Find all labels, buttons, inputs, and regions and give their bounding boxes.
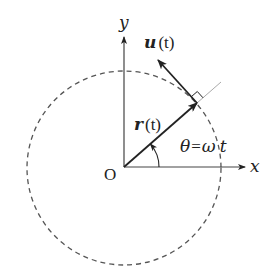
equals-symbol: = xyxy=(191,137,201,156)
x-axis-label: x xyxy=(250,156,260,176)
diagram-svg: y x O r(t) u(t) θ=ωt xyxy=(0,0,279,278)
u-vector-label: u(t) xyxy=(144,32,174,52)
radial-extension-line xyxy=(197,82,221,103)
r-vector-label: r(t) xyxy=(134,114,161,134)
angle-label: θ=ωt xyxy=(180,136,227,156)
u-arg: (t) xyxy=(158,33,174,52)
r-symbol: r xyxy=(134,114,144,134)
origin-label: O xyxy=(104,165,116,184)
r-arg: (t) xyxy=(145,115,161,134)
u-symbol: u xyxy=(144,32,156,52)
theta-symbol: θ xyxy=(180,136,190,156)
r-vector xyxy=(124,103,197,167)
circular-motion-diagram: y x O r(t) u(t) θ=ωt xyxy=(0,0,279,278)
t-symbol: t xyxy=(220,136,227,156)
omega-symbol: ω xyxy=(202,136,216,156)
right-angle-mark xyxy=(192,92,204,98)
u-vector xyxy=(158,60,197,103)
angle-arc xyxy=(150,144,159,167)
y-axis-label: y xyxy=(118,12,129,32)
